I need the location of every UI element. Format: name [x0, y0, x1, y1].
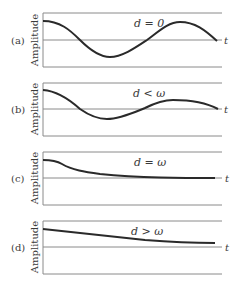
panel-d-ylabel: Amplitude [29, 221, 40, 274]
panel-b-label: (b) [11, 104, 25, 115]
panel-a-annotation: d = 0 [134, 17, 164, 30]
panel-b-t-label: t [224, 104, 229, 115]
panel-a-t-label: t [224, 35, 229, 46]
panel-c-label: (c) [11, 173, 25, 184]
panel-b-annotation: d < ω [133, 87, 165, 100]
panel-a-ylabel: Amplitude [29, 14, 40, 67]
panel-c-curve [43, 160, 215, 178]
panel-c-ylabel: Amplitude [29, 152, 40, 205]
panel-a: d = 0 t (a) Amplitude [11, 13, 229, 67]
panel-a-label: (a) [11, 35, 25, 46]
panel-d-label: (d) [11, 242, 25, 253]
panel-d-curve [43, 229, 215, 243]
panel-d-annotation: d > ω [131, 225, 163, 238]
panel-d: d > ω t (d) Amplitude [11, 221, 230, 274]
panel-d-t-label: t [225, 242, 230, 253]
panel-b-ylabel: Amplitude [29, 83, 40, 136]
panel-a-curve [43, 21, 217, 57]
panel-b: d < ω t (b) Amplitude [11, 83, 229, 136]
panel-c-annotation: d = ω [134, 156, 166, 169]
panel-c-t-label: t [225, 173, 230, 184]
panel-c: d = ω t (c) Amplitude [11, 152, 230, 205]
panel-b-curve [43, 90, 218, 119]
damped-oscillation-figure: d = 0 t (a) Amplitude d < ω t (b) Amplit… [0, 0, 240, 285]
